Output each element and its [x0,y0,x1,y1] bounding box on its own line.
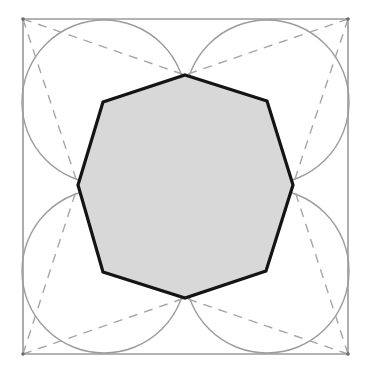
dashed-line [293,185,348,354]
octagon-construction-diagram [0,0,365,375]
octagon-outline [78,75,293,298]
corner-point [346,17,350,21]
dashed-line [23,19,185,75]
dashed-line [23,298,185,354]
dashed-line [185,298,348,354]
dashed-line [23,19,78,185]
dashed-line [185,19,348,75]
corner-point [346,352,350,356]
corner-point [21,352,25,356]
dashed-line [293,19,348,185]
dashed-line [23,185,78,354]
corner-point [21,17,25,21]
